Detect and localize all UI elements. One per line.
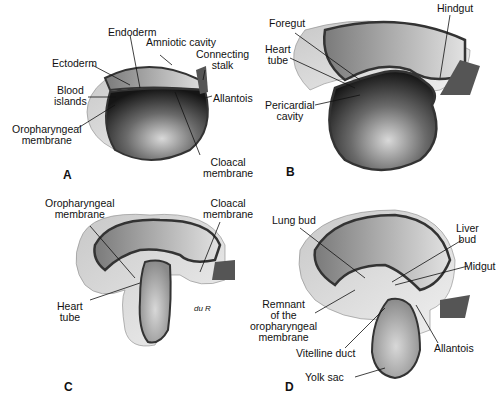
label-yolk-sac: Yolk sac bbox=[305, 372, 344, 383]
label-vitelline-duct: Vitelline duct bbox=[296, 348, 355, 359]
label-oropharyngeal-membrane-c: Oropharyngeal membrane bbox=[45, 198, 114, 220]
label-ectoderm: Ectoderm bbox=[52, 58, 97, 69]
label-liver-bud: Liver bud bbox=[456, 223, 479, 245]
panel-a-drawing bbox=[87, 66, 208, 160]
label-remnant-oropharyngeal-membrane: Remnant of the oropharyngeal membrane bbox=[250, 299, 317, 343]
panel-b-drawing bbox=[294, 21, 480, 170]
label-pericardial-cavity: Pericardial cavity bbox=[265, 100, 315, 122]
label-cloacal-membrane-c: Cloacal membrane bbox=[203, 198, 253, 220]
panel-letter-d: D bbox=[285, 380, 294, 394]
label-hindgut: Hindgut bbox=[437, 3, 473, 14]
label-heart-tube-c: Heart tube bbox=[57, 301, 83, 323]
label-blood-islands: Blood islands bbox=[54, 85, 87, 107]
artist-signature: du R bbox=[194, 303, 211, 314]
label-foregut: Foregut bbox=[269, 18, 305, 29]
label-oropharyngeal-membrane-a: Oropharyngeal membrane bbox=[12, 124, 81, 146]
label-midgut: Midgut bbox=[464, 261, 496, 272]
label-lung-bud: Lung bud bbox=[272, 215, 316, 226]
panel-letter-a: A bbox=[63, 168, 72, 182]
label-amniotic-cavity: Amniotic cavity bbox=[146, 37, 216, 48]
panel-c-drawing bbox=[76, 214, 235, 346]
label-cloacal-membrane-a: Cloacal membrane bbox=[203, 157, 253, 179]
label-heart-tube-b: Heart tube bbox=[265, 44, 291, 66]
panel-letter-c: C bbox=[64, 380, 73, 394]
label-allantois-d: Allantois bbox=[434, 343, 474, 354]
panel-letter-b: B bbox=[286, 165, 295, 179]
label-connecting-stalk: Connecting stalk bbox=[196, 49, 249, 71]
label-allantois-a: Allantois bbox=[213, 93, 253, 104]
